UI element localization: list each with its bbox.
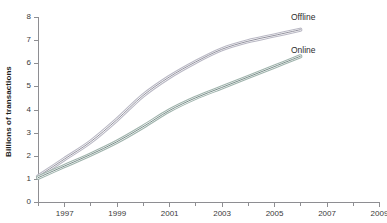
x-tick-major: 2001 bbox=[169, 202, 170, 207]
series-tube-highlight bbox=[38, 56, 300, 177]
chart-screenshot: Billions of transactions 012345678 19971… bbox=[0, 0, 387, 223]
x-tick-label: 1999 bbox=[108, 209, 126, 218]
series-line-offline bbox=[38, 30, 300, 177]
y-tick-label: 5 bbox=[27, 81, 31, 90]
series-label-offline: Offline bbox=[291, 12, 315, 22]
x-tick-minor bbox=[195, 202, 196, 206]
y-tick-label: 7 bbox=[27, 35, 31, 44]
series-lines bbox=[38, 17, 287, 202]
x-tick-minor bbox=[353, 202, 354, 206]
x-tick-minor bbox=[300, 202, 301, 206]
x-tick-major: 2003 bbox=[222, 202, 223, 207]
y-axis-title: Billions of transactions bbox=[0, 0, 16, 223]
x-tick-minor bbox=[90, 202, 91, 206]
x-tick-minor bbox=[248, 202, 249, 206]
y-tick-label: 3 bbox=[27, 128, 31, 137]
x-tick-minor bbox=[38, 202, 39, 206]
x-tick-major: 2005 bbox=[274, 202, 275, 207]
plot-area: 012345678 1997199920012003200520072009 bbox=[38, 17, 287, 202]
y-tick-label: 1 bbox=[27, 174, 31, 183]
x-tick-minor bbox=[143, 202, 144, 206]
x-tick-label: 1997 bbox=[56, 209, 74, 218]
x-axis-line bbox=[38, 202, 379, 203]
x-tick-label: 2001 bbox=[161, 209, 179, 218]
series-tube-outer bbox=[38, 30, 300, 177]
x-tick-label: 2003 bbox=[213, 209, 231, 218]
x-tick-major: 1999 bbox=[117, 202, 118, 207]
y-tick-label: 4 bbox=[27, 105, 31, 114]
x-tick-major: 2007 bbox=[327, 202, 328, 207]
x-tick-label: 2007 bbox=[318, 209, 336, 218]
x-tick-label: 2005 bbox=[266, 209, 284, 218]
y-tick-label: 2 bbox=[27, 151, 31, 160]
series-tube-highlight bbox=[38, 30, 300, 177]
y-tick-label: 8 bbox=[27, 12, 31, 21]
y-tick-label: 0 bbox=[27, 197, 31, 206]
x-tick-major: 1997 bbox=[64, 202, 65, 207]
x-tick-label: 2009 bbox=[371, 209, 387, 218]
series-label-online: Online bbox=[291, 45, 316, 55]
y-tick-label: 6 bbox=[27, 58, 31, 67]
x-tick-major: 2009 bbox=[379, 202, 380, 207]
